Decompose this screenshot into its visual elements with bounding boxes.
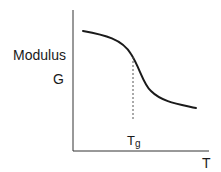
tg-label-sub: g [135, 138, 141, 149]
y-axis-label-g: G [53, 71, 64, 87]
tg-label-main: T [127, 133, 135, 148]
modulus-curve [83, 31, 196, 108]
tg-label: Tg [127, 133, 141, 149]
x-axis-label-t: T [202, 155, 211, 171]
modulus-temperature-diagram: Modulus G T Tg [0, 0, 221, 172]
y-axis-label-modulus: Modulus [13, 47, 66, 63]
